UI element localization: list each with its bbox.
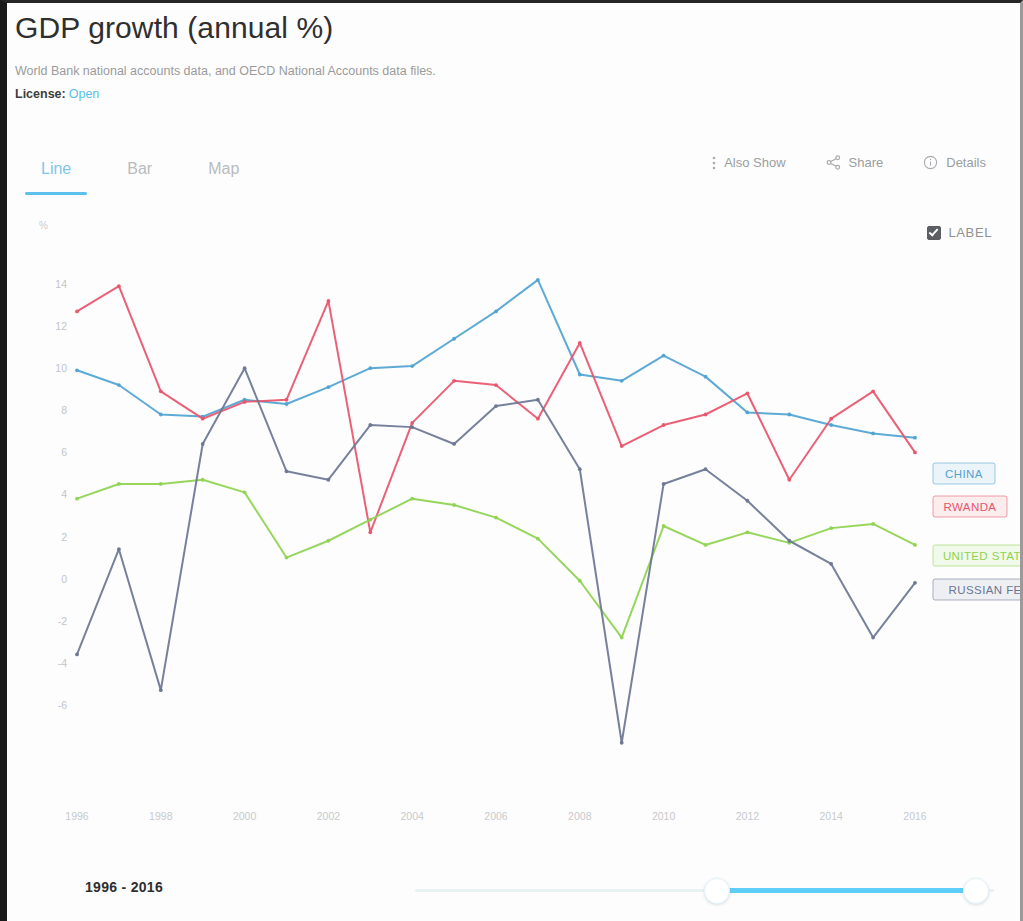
data-point[interactable]: [452, 503, 456, 507]
data-point[interactable]: [285, 469, 289, 473]
data-point[interactable]: [746, 499, 750, 503]
data-point[interactable]: [75, 652, 79, 656]
data-point[interactable]: [75, 368, 79, 372]
data-point[interactable]: [787, 413, 791, 417]
data-point[interactable]: [578, 579, 582, 583]
tab-map[interactable]: Map: [204, 153, 243, 185]
data-point[interactable]: [452, 379, 456, 383]
data-point[interactable]: [243, 400, 247, 404]
series-line-rwanda[interactable]: [77, 286, 915, 532]
data-point[interactable]: [117, 284, 121, 288]
series-label-united-states[interactable]: UNITED STATES: [933, 545, 1020, 566]
year-range-slider[interactable]: [415, 878, 994, 904]
data-point[interactable]: [913, 581, 917, 585]
y-axis-tick: -2: [58, 615, 67, 627]
data-point[interactable]: [117, 482, 121, 486]
data-point[interactable]: [368, 530, 372, 534]
data-point[interactable]: [662, 482, 666, 486]
license-link[interactable]: Open: [69, 87, 100, 101]
series-label-china[interactable]: CHINA: [933, 463, 995, 484]
data-point[interactable]: [410, 421, 414, 425]
data-point[interactable]: [662, 524, 666, 528]
data-point[interactable]: [117, 547, 121, 551]
also-show-button[interactable]: Also Show: [712, 155, 785, 170]
data-point[interactable]: [285, 556, 289, 560]
data-point[interactable]: [327, 478, 331, 482]
data-point[interactable]: [159, 413, 163, 417]
data-point[interactable]: [578, 341, 582, 345]
data-point[interactable]: [494, 404, 498, 408]
data-point[interactable]: [578, 467, 582, 471]
data-point[interactable]: [620, 379, 624, 383]
data-point[interactable]: [368, 423, 372, 427]
data-point[interactable]: [746, 410, 750, 414]
data-point[interactable]: [829, 562, 833, 566]
data-point[interactable]: [746, 530, 750, 534]
data-point[interactable]: [243, 490, 247, 494]
tab-bar[interactable]: Bar: [123, 153, 156, 185]
data-point[interactable]: [327, 385, 331, 389]
data-point[interactable]: [829, 526, 833, 530]
data-point[interactable]: [536, 417, 540, 421]
data-point[interactable]: [285, 398, 289, 402]
data-point[interactable]: [201, 478, 205, 482]
data-point[interactable]: [75, 309, 79, 313]
data-point[interactable]: [117, 383, 121, 387]
series-label-rwanda[interactable]: RWANDA: [933, 496, 1007, 517]
data-point[interactable]: [327, 299, 331, 303]
details-button[interactable]: Details: [923, 155, 986, 170]
data-point[interactable]: [620, 636, 624, 640]
data-point[interactable]: [494, 383, 498, 387]
line-chart[interactable]: 14121086420-2-4-619961998200020022004200…: [15, 208, 1020, 828]
data-point[interactable]: [368, 366, 372, 370]
data-point[interactable]: [452, 337, 456, 341]
data-point[interactable]: [913, 436, 917, 440]
data-point[interactable]: [871, 522, 875, 526]
data-point[interactable]: [746, 392, 750, 396]
data-point[interactable]: [201, 442, 205, 446]
data-point[interactable]: [704, 543, 708, 547]
slider-handle-end[interactable]: [963, 878, 989, 904]
data-point[interactable]: [578, 373, 582, 377]
data-point[interactable]: [829, 423, 833, 427]
data-point[interactable]: [410, 425, 414, 429]
data-point[interactable]: [913, 450, 917, 454]
data-point[interactable]: [871, 636, 875, 640]
data-point[interactable]: [620, 444, 624, 448]
data-point[interactable]: [662, 354, 666, 358]
series-label-russian-federation[interactable]: RUSSIAN FEDERATION: [933, 579, 1020, 600]
series-line-united-states[interactable]: [77, 480, 915, 638]
data-point[interactable]: [494, 309, 498, 313]
data-point[interactable]: [787, 539, 791, 543]
data-point[interactable]: [871, 389, 875, 393]
data-point[interactable]: [829, 417, 833, 421]
data-point[interactable]: [704, 467, 708, 471]
data-point[interactable]: [494, 516, 498, 520]
data-point[interactable]: [913, 543, 917, 547]
data-point[interactable]: [243, 366, 247, 370]
data-point[interactable]: [368, 518, 372, 522]
data-point[interactable]: [410, 364, 414, 368]
data-point[interactable]: [201, 417, 205, 421]
data-point[interactable]: [536, 398, 540, 402]
tab-line[interactable]: Line: [37, 153, 75, 185]
data-point[interactable]: [787, 478, 791, 482]
share-button[interactable]: Share: [826, 155, 884, 170]
data-point[interactable]: [159, 389, 163, 393]
data-point[interactable]: [327, 539, 331, 543]
data-point[interactable]: [536, 537, 540, 541]
data-point[interactable]: [620, 741, 624, 745]
data-point[interactable]: [159, 482, 163, 486]
data-point[interactable]: [285, 402, 289, 406]
data-point[interactable]: [452, 442, 456, 446]
data-point[interactable]: [662, 423, 666, 427]
data-point[interactable]: [159, 688, 163, 692]
data-point[interactable]: [704, 375, 708, 379]
data-point[interactable]: [536, 278, 540, 282]
slider-handle-start[interactable]: [704, 878, 730, 904]
data-point[interactable]: [410, 497, 414, 501]
data-point[interactable]: [75, 497, 79, 501]
data-point[interactable]: [871, 432, 875, 436]
series-line-russian-federation[interactable]: [77, 368, 915, 743]
data-point[interactable]: [704, 413, 708, 417]
